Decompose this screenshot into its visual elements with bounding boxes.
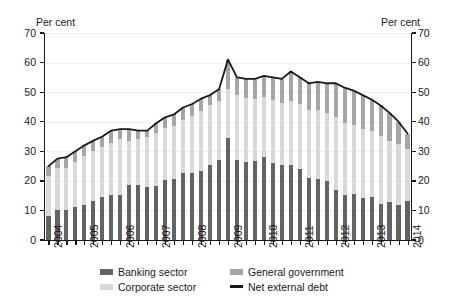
x-tick: [318, 241, 319, 245]
y-axis-label-right: 40: [418, 116, 440, 127]
x-tick: [66, 241, 67, 245]
y-tick-right: [412, 210, 416, 211]
x-tick: [48, 241, 49, 245]
y-axis-unit-left: Per cent: [36, 16, 75, 28]
x-tick: [390, 241, 391, 245]
y-tick-left: [40, 121, 44, 122]
y-axis-label-right: 60: [418, 57, 440, 68]
line-path-net-external-debt: [48, 60, 407, 166]
x-tick: [255, 241, 256, 245]
legend-item-banking[interactable]: Banking sector: [100, 266, 230, 278]
legend-item-net[interactable]: Net external debt: [230, 281, 370, 293]
y-axis-label-left: 20: [14, 175, 36, 186]
y-axis-left: [44, 33, 45, 241]
legend-label-banking: Banking sector: [118, 266, 187, 278]
y-axis-label-left: 10: [14, 205, 36, 216]
x-axis-year-label: 2005: [89, 225, 100, 248]
plot-area: [44, 33, 412, 240]
x-tick: [156, 241, 157, 245]
y-tick-right: [412, 151, 416, 152]
y-tick-right: [412, 121, 416, 122]
y-tick-left: [40, 210, 44, 211]
y-tick-left: [40, 32, 44, 33]
x-axis-year-label: 2014: [412, 225, 423, 248]
x-tick: [84, 241, 85, 245]
x-tick: [363, 241, 364, 245]
y-axis-label-right: 70: [418, 28, 440, 39]
y-axis-unit-right: Per cent: [381, 16, 420, 28]
y-tick-left: [40, 239, 44, 240]
y-tick-right: [412, 62, 416, 63]
x-tick: [219, 241, 220, 245]
x-tick: [264, 241, 265, 245]
x-tick: [327, 241, 328, 245]
x-axis-year-label: 2013: [376, 225, 387, 248]
y-tick-left: [40, 180, 44, 181]
x-axis-year-label: 2007: [161, 225, 172, 248]
legend-item-corporate[interactable]: Corporate sector: [100, 281, 230, 293]
legend-swatch-banking: [100, 269, 113, 275]
y-tick-right: [412, 32, 416, 33]
x-axis-year-label: 2008: [197, 225, 208, 248]
x-axis-year-label: 2011: [304, 225, 315, 248]
y-axis-label-left: 50: [14, 87, 36, 98]
x-axis-year-label: 2006: [125, 225, 136, 248]
y-tick-left: [40, 151, 44, 152]
x-tick: [300, 241, 301, 245]
x-tick: [183, 241, 184, 245]
y-tick-right: [412, 92, 416, 93]
y-tick-right: [412, 180, 416, 181]
y-axis-label-left: 0: [14, 235, 36, 246]
x-tick: [210, 241, 211, 245]
y-axis-label-right: 10: [418, 205, 440, 216]
legend-line-marker-net: [230, 285, 243, 287]
y-axis-label-left: 60: [14, 57, 36, 68]
y-tick-left: [40, 62, 44, 63]
x-tick: [174, 241, 175, 245]
legend-label-govt: General government: [248, 266, 344, 278]
x-tick: [192, 241, 193, 245]
x-tick: [291, 241, 292, 245]
chart-legend: Banking sectorGeneral governmentCorporat…: [100, 264, 370, 294]
net-external-debt-chart: Per cent Per cent 0010102020303040405050…: [0, 0, 456, 308]
y-tick-left: [40, 92, 44, 93]
x-tick: [354, 241, 355, 245]
legend-label-net: Net external debt: [248, 281, 328, 293]
x-tick: [138, 241, 139, 245]
y-axis-label-right: 50: [418, 87, 440, 98]
x-tick: [228, 241, 229, 245]
x-axis-year-label: 2009: [233, 225, 244, 248]
x-tick: [111, 241, 112, 245]
x-tick: [75, 241, 76, 245]
x-tick: [102, 241, 103, 245]
x-tick: [408, 241, 409, 245]
x-tick: [336, 241, 337, 245]
x-tick: [147, 241, 148, 245]
y-axis-label-left: 30: [14, 146, 36, 157]
x-axis-year-label: 2012: [340, 225, 351, 248]
x-tick: [120, 241, 121, 245]
y-axis-label-right: 30: [418, 146, 440, 157]
legend-swatch-govt: [230, 269, 243, 275]
x-tick: [246, 241, 247, 245]
legend-label-corporate: Corporate sector: [118, 281, 196, 293]
y-axis-label-right: 20: [418, 175, 440, 186]
y-axis-label-left: 70: [14, 28, 36, 39]
x-tick: [399, 241, 400, 245]
legend-item-govt[interactable]: General government: [230, 266, 370, 278]
x-axis-year-label: 2004: [53, 225, 64, 248]
x-axis-year-label: 2010: [268, 225, 279, 248]
legend-swatch-corporate: [100, 284, 113, 290]
x-tick: [372, 241, 373, 245]
x-tick: [282, 241, 283, 245]
net-external-debt-line: [44, 33, 412, 240]
y-axis-label-left: 40: [14, 116, 36, 127]
